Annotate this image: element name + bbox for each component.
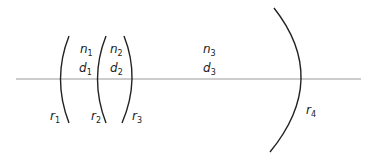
- label-n2: n2: [110, 43, 123, 60]
- lens-diagram: [0, 0, 375, 159]
- label-r1: r1: [50, 110, 60, 127]
- label-n1: n1: [80, 43, 93, 60]
- label-r2: r2: [91, 110, 101, 127]
- label-r4: r4: [306, 104, 316, 121]
- label-d1: d1: [79, 62, 92, 79]
- label-d3: d3: [203, 62, 216, 79]
- label-d2: d2: [110, 62, 123, 79]
- label-r3: r3: [132, 110, 142, 127]
- label-n3: n3: [203, 43, 216, 60]
- surface-r4: [270, 8, 301, 152]
